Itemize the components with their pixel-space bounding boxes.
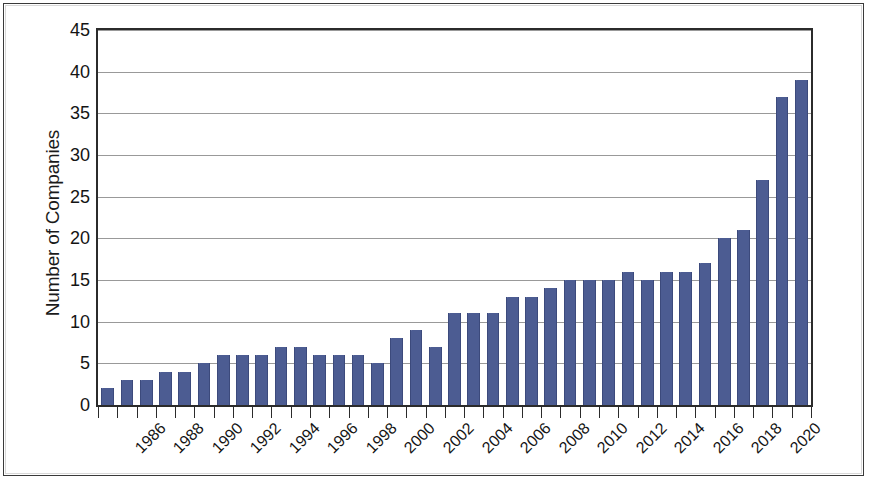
bar bbox=[140, 380, 153, 405]
bar bbox=[121, 380, 134, 405]
x-axis-tick-label: 2004 bbox=[479, 420, 515, 456]
x-axis-tick bbox=[772, 407, 773, 418]
y-axis-tick-label: 10 bbox=[40, 313, 90, 331]
plot-area bbox=[96, 28, 813, 407]
y-axis-tick-labels: 051015202530354045 bbox=[40, 28, 90, 407]
bar bbox=[313, 355, 326, 405]
bar bbox=[737, 230, 750, 405]
x-axis-tick bbox=[522, 407, 523, 418]
x-axis-tick bbox=[233, 407, 234, 418]
x-axis-ticks bbox=[96, 407, 813, 418]
bar bbox=[506, 297, 519, 405]
x-axis-tick-label: 2012 bbox=[633, 420, 669, 456]
x-axis-tick-label: 2014 bbox=[672, 420, 708, 456]
x-axis-tick bbox=[464, 407, 465, 418]
y-axis-tick-label: 5 bbox=[40, 354, 90, 372]
bar bbox=[352, 355, 365, 405]
bar bbox=[410, 330, 423, 405]
bar bbox=[583, 280, 596, 405]
x-axis-tick bbox=[368, 407, 369, 418]
x-axis-tick-label: 1992 bbox=[248, 420, 284, 456]
bar bbox=[641, 280, 654, 405]
x-axis-tick bbox=[753, 407, 754, 418]
bar bbox=[448, 313, 461, 405]
y-axis-tick-label: 40 bbox=[40, 63, 90, 81]
y-axis-tick-label: 45 bbox=[40, 21, 90, 39]
x-axis-tick bbox=[792, 407, 793, 418]
x-axis-tick bbox=[291, 407, 292, 418]
x-axis-tick bbox=[541, 407, 542, 418]
y-axis-tick-label: 35 bbox=[40, 104, 90, 122]
x-axis-tick bbox=[387, 407, 388, 418]
bar bbox=[622, 272, 635, 405]
bar bbox=[390, 338, 403, 405]
x-axis-tick-labels: 1986198819901992199419961998200020022004… bbox=[96, 418, 813, 474]
y-axis-tick-label: 20 bbox=[40, 229, 90, 247]
bar bbox=[718, 238, 731, 405]
x-axis-tick bbox=[638, 407, 639, 418]
x-axis-tick-label: 2010 bbox=[595, 420, 631, 456]
x-axis-tick bbox=[618, 407, 619, 418]
y-axis-tick-label: 15 bbox=[40, 271, 90, 289]
x-axis-tick-label: 1998 bbox=[363, 420, 399, 456]
x-axis-tick bbox=[349, 407, 350, 418]
x-axis-tick-label: 2020 bbox=[787, 420, 823, 456]
x-axis-tick bbox=[580, 407, 581, 418]
bar bbox=[236, 355, 249, 405]
bars-container bbox=[98, 30, 811, 405]
bar bbox=[699, 263, 712, 405]
bar bbox=[275, 347, 288, 405]
bar bbox=[371, 363, 384, 405]
x-axis-tick bbox=[715, 407, 716, 418]
x-axis-tick bbox=[406, 407, 407, 418]
x-axis-tick bbox=[483, 407, 484, 418]
x-axis-tick bbox=[252, 407, 253, 418]
bar bbox=[178, 372, 191, 405]
x-axis-tick bbox=[137, 407, 138, 418]
x-axis-tick-label: 1994 bbox=[286, 420, 322, 456]
x-axis-tick bbox=[117, 407, 118, 418]
bar bbox=[679, 272, 692, 405]
bar bbox=[217, 355, 230, 405]
bar bbox=[660, 272, 673, 405]
bar bbox=[467, 313, 480, 405]
x-axis-tick-label: 1988 bbox=[171, 420, 207, 456]
x-axis-tick bbox=[811, 407, 812, 418]
x-axis-tick-label: 2008 bbox=[556, 420, 592, 456]
bar bbox=[795, 80, 808, 405]
x-axis-tick bbox=[98, 407, 99, 418]
x-axis-tick-label: 2018 bbox=[749, 420, 785, 456]
x-axis-tick bbox=[329, 407, 330, 418]
bar bbox=[429, 347, 442, 405]
x-axis-tick bbox=[271, 407, 272, 418]
x-axis-tick-label: 2000 bbox=[402, 420, 438, 456]
y-axis-tick-label: 30 bbox=[40, 146, 90, 164]
x-axis-tick bbox=[503, 407, 504, 418]
x-axis-tick-label: 1990 bbox=[209, 420, 245, 456]
x-axis-tick bbox=[657, 407, 658, 418]
y-axis-tick-label: 25 bbox=[40, 188, 90, 206]
x-axis-tick bbox=[175, 407, 176, 418]
x-axis-tick-label: 2016 bbox=[710, 420, 746, 456]
x-axis-tick-label: 2006 bbox=[517, 420, 553, 456]
x-axis-tick bbox=[560, 407, 561, 418]
y-axis-tick-label: 0 bbox=[40, 396, 90, 414]
bar bbox=[159, 372, 172, 405]
bar bbox=[776, 97, 789, 405]
bar bbox=[602, 280, 615, 405]
bar bbox=[487, 313, 500, 405]
bar bbox=[525, 297, 538, 405]
x-axis-tick bbox=[310, 407, 311, 418]
x-axis-tick bbox=[695, 407, 696, 418]
bar bbox=[564, 280, 577, 405]
bar bbox=[101, 388, 114, 405]
x-axis-tick bbox=[214, 407, 215, 418]
x-axis-tick-label: 1996 bbox=[325, 420, 361, 456]
x-axis-tick bbox=[445, 407, 446, 418]
bar bbox=[544, 288, 557, 405]
bar bbox=[333, 355, 346, 405]
x-axis-tick-label: 2002 bbox=[440, 420, 476, 456]
x-axis-tick bbox=[194, 407, 195, 418]
bar bbox=[198, 363, 211, 405]
bar bbox=[756, 180, 769, 405]
